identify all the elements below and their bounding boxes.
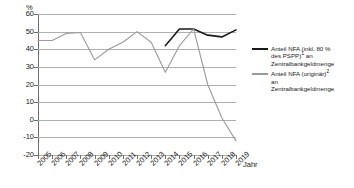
- legend-swatch-nfa-original: [252, 73, 268, 75]
- chart-legend: Anteil NFA (inkl. 80 % des PSPP)1 an Zen…: [252, 45, 354, 95]
- y-axis-tick-label: -10: [10, 133, 34, 141]
- y-axis-tick-label: 20: [10, 81, 34, 89]
- plot-area: [38, 14, 236, 155]
- legend-label2-line-1-pre: Anteil NFA (originär): [271, 70, 326, 77]
- legend-entry-nfa-original: Anteil NFA (originär)2 an Zentralbankgel…: [252, 70, 354, 92]
- series-line: [165, 29, 236, 46]
- legend-label2-line-2: an: [271, 78, 354, 85]
- series-lines: [38, 14, 236, 155]
- footnote-marker-1: 1: [301, 50, 304, 56]
- legend-label-line-3: Zentralbankgeldmenge: [271, 60, 354, 67]
- y-axis-tick-label: 40: [10, 45, 34, 53]
- y-axis-tick-label: 30: [10, 63, 34, 71]
- y-axis-tick-label: 60: [10, 10, 34, 18]
- legend-label2-line-1: Anteil NFA (originär)2: [271, 70, 354, 77]
- legend-entry-nfa-pspp: Anteil NFA (inkl. 80 % des PSPP)1 an Zen…: [252, 45, 354, 67]
- legend-label2-line-3: Zentralbankgeldmenge: [271, 85, 354, 92]
- legend-label-line-2: des PSPP)1 an: [271, 52, 354, 59]
- legend-label-line-2-post: an: [306, 52, 313, 59]
- legend-swatch-nfa-pspp: [252, 48, 268, 50]
- series-line: [38, 29, 236, 141]
- y-axis-tick-label: -20: [10, 151, 34, 159]
- footnote-marker-2: 2: [326, 68, 329, 74]
- line-chart: % 6050403020100-10-20 200520062007200820…: [0, 0, 354, 188]
- y-axis-tick-label: 0: [10, 116, 34, 124]
- y-axis-tick-label: 50: [10, 28, 34, 36]
- legend-label-line-2-pre: des PSPP): [271, 52, 301, 59]
- y-axis-tick-label: 10: [10, 98, 34, 106]
- x-axis-title: Jahr: [243, 160, 258, 169]
